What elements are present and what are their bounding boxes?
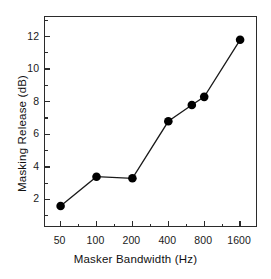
y-axis-tick-major — [44, 199, 50, 200]
data-point-marker — [200, 93, 209, 102]
data-point-marker — [236, 36, 245, 45]
x-axis-tick-minor — [186, 224, 187, 228]
y-axis-tick-minor — [44, 52, 48, 53]
y-axis-tick-minor — [44, 150, 48, 151]
y-axis-tick-major — [44, 166, 50, 167]
y-axis-tick-minor — [44, 183, 48, 184]
x-axis-tick-minor — [150, 224, 151, 228]
y-axis-tick-label: 2 — [33, 192, 39, 204]
data-series-line — [45, 17, 258, 228]
y-axis-tick-major — [44, 134, 50, 135]
y-axis-tick-major — [44, 68, 50, 69]
x-axis-tick-major — [239, 221, 240, 227]
y-axis-tick-label: 6 — [33, 127, 39, 139]
data-point-marker — [164, 117, 173, 126]
y-axis-tick-minor — [44, 85, 48, 86]
y-axis-tick-minor — [44, 117, 48, 118]
series-polyline — [61, 40, 241, 206]
y-axis-tick-minor — [44, 20, 48, 21]
plot-area — [44, 16, 257, 227]
y-axis-tick-minor — [44, 215, 48, 216]
x-axis-tick-label: 50 — [54, 234, 66, 246]
x-axis-tick-minor — [222, 224, 223, 228]
y-axis-tick-label: 12 — [27, 30, 39, 42]
chart-figure: 50100200400800160024681012 Masker Bandwi… — [0, 0, 271, 279]
x-axis-tick-major — [204, 221, 205, 227]
data-point-marker — [188, 101, 197, 110]
y-axis-tick-label: 8 — [33, 95, 39, 107]
y-axis-tick-label: 10 — [27, 62, 39, 74]
y-axis-title: Masking Release (dB) — [16, 75, 28, 192]
x-axis-tick-minor — [78, 224, 79, 228]
x-axis-tick-major — [168, 221, 169, 227]
y-axis-tick-major — [44, 101, 50, 102]
y-axis-tick-major — [44, 36, 50, 37]
data-point-marker — [56, 202, 65, 211]
x-axis-title: Masker Bandwidth (Hz) — [0, 253, 271, 265]
x-axis-tick-label: 800 — [194, 234, 212, 246]
x-axis-tick-minor — [114, 224, 115, 228]
x-axis-tick-label: 1600 — [227, 234, 251, 246]
x-axis-tick-label: 200 — [122, 234, 140, 246]
x-axis-tick-major — [96, 221, 97, 227]
y-axis-tick-label: 4 — [33, 160, 39, 172]
x-axis-tick-major — [132, 221, 133, 227]
x-axis-tick-label: 400 — [158, 234, 176, 246]
data-point-marker — [92, 172, 101, 181]
x-axis-tick-label: 100 — [87, 234, 105, 246]
data-point-marker — [128, 174, 137, 183]
x-axis-tick-major — [60, 221, 61, 227]
